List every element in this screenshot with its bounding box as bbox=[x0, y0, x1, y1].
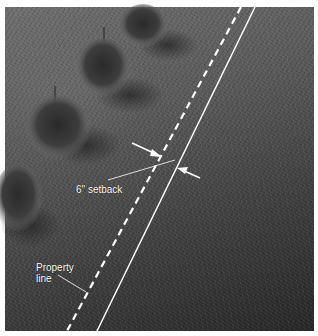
setback-label: 6" setback bbox=[76, 184, 122, 195]
evergreen-tree-2 bbox=[76, 27, 130, 98]
setback-arrow-left bbox=[132, 143, 162, 157]
property-line-label-line2: line bbox=[36, 273, 74, 284]
property-line-label: Property line bbox=[36, 262, 74, 284]
property-line-label-line1: Property bbox=[36, 262, 74, 273]
setback-leader bbox=[108, 160, 175, 180]
figure-overlay bbox=[0, 0, 318, 336]
evergreen-tree-3 bbox=[26, 86, 90, 160]
evergreen-tree-1 bbox=[119, 4, 167, 48]
setback-arrow-right bbox=[177, 167, 200, 178]
